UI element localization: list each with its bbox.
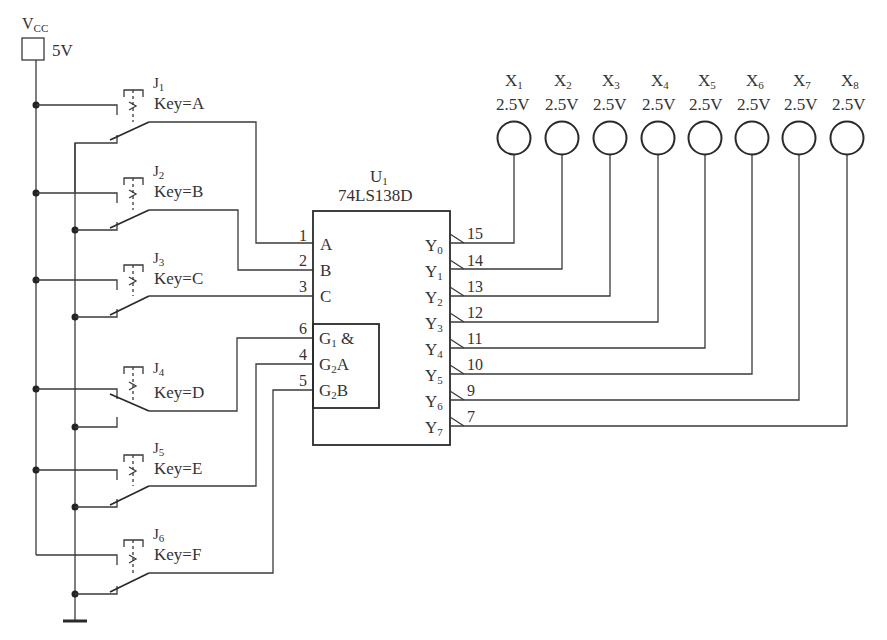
probe-label: X7 [793, 72, 811, 91]
pin-number: 7 [467, 409, 475, 425]
switch-j5-key: Key=E [154, 460, 202, 477]
pin-name: Y1 [425, 263, 443, 282]
probe-voltage: 2.5V [593, 96, 627, 113]
pin-name: Y7 [425, 419, 443, 438]
pin-name: G2B [319, 382, 348, 401]
pin-name: Y3 [425, 315, 443, 334]
probe-voltage: 2.5V [784, 96, 818, 113]
pin-name: Y4 [425, 341, 443, 360]
switch-j6 [36, 390, 313, 598]
switch-j4-label: J4 [153, 361, 164, 378]
vcc-source-box [22, 38, 44, 60]
pin-name: Y5 [425, 367, 443, 386]
pin-name: G2A [319, 356, 349, 375]
pin-number: 3 [299, 279, 307, 295]
probe-label: X4 [651, 72, 669, 91]
pin-number: 4 [299, 347, 307, 363]
switch-j3-label: J3 [153, 251, 164, 268]
pin-name: B [320, 262, 331, 279]
probe-voltage: 2.5V [832, 96, 866, 113]
pin-name: C [320, 288, 331, 305]
switch-j1-label: J1 [153, 76, 164, 93]
pin-name: G1 & [319, 330, 354, 349]
probe-label: X1 [505, 72, 523, 91]
switch-j1-key: Key=A [154, 95, 204, 112]
probe-label: X2 [554, 72, 572, 91]
probe-voltage: 2.5V [545, 96, 579, 113]
pin-name: Y2 [425, 289, 443, 308]
probe-label: X3 [602, 72, 620, 91]
pin-number: 5 [299, 373, 307, 389]
pin-name: Y6 [425, 393, 443, 412]
probe-voltage: 2.5V [689, 96, 723, 113]
probe-label: X5 [698, 72, 716, 91]
chip-ref: U1 [370, 168, 388, 187]
probe-lamps [498, 122, 864, 155]
chip-part: 74LS138D [338, 187, 413, 204]
pin-number: 14 [467, 253, 483, 269]
probe-voltage: 2.5V [642, 96, 676, 113]
pin-number: 11 [467, 331, 482, 347]
probe-label: X8 [841, 72, 859, 91]
switch-j6-label: J6 [153, 527, 164, 544]
switch-j6-key: Key=F [154, 546, 201, 563]
vcc-label: VCC [22, 16, 48, 34]
vcc-value: 5V [52, 42, 73, 59]
switch-j2-label: J2 [153, 164, 164, 181]
pin-number: 15 [467, 226, 483, 242]
probe-voltage: 2.5V [737, 96, 771, 113]
pin-number: 10 [467, 357, 483, 373]
pin-number: 2 [299, 253, 307, 269]
switch-j4-key: Key=D [154, 384, 204, 401]
pin-number: 9 [467, 383, 475, 399]
switch-j2-key: Key=B [154, 183, 203, 200]
output-wires [450, 154, 847, 426]
pin-number: 6 [299, 321, 307, 337]
switch-j5-label: J5 [153, 441, 164, 458]
pin-number: 13 [467, 279, 483, 295]
probe-label: X6 [746, 72, 764, 91]
pin-number: 12 [467, 305, 483, 321]
pin-name: Y0 [425, 237, 443, 256]
pin-name: A [320, 236, 332, 253]
pin-number: 1 [299, 228, 307, 244]
switch-j3-key: Key=C [154, 270, 203, 287]
probe-voltage: 2.5V [496, 96, 530, 113]
